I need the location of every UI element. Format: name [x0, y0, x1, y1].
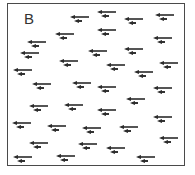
- arrow-pair: [13, 156, 35, 166]
- arrow-pair: [134, 71, 156, 81]
- arrow-pair: [32, 83, 54, 93]
- arrow-pair: [97, 86, 119, 96]
- panel-label: B: [24, 11, 34, 26]
- arrow-pair: [124, 48, 146, 58]
- arrow-pair: [13, 69, 35, 79]
- arrow-pair: [29, 105, 51, 115]
- arrow-pair: [56, 155, 78, 165]
- arrow-pair: [97, 29, 119, 39]
- arrow-pair: [20, 52, 42, 62]
- arrow-pair: [97, 109, 119, 119]
- arrow-pair: [126, 98, 148, 108]
- arrow-pair: [159, 62, 181, 72]
- arrow-pair: [27, 41, 49, 51]
- arrow-pair: [97, 11, 119, 21]
- arrow-pair: [153, 87, 175, 97]
- arrow-pair: [29, 142, 51, 152]
- arrow-pair: [159, 137, 181, 147]
- arrow-pair: [59, 60, 81, 70]
- arrow-pair: [64, 104, 86, 114]
- arrow-pair: [106, 147, 128, 157]
- arrow-pair: [88, 50, 110, 60]
- arrow-pair: [55, 33, 77, 43]
- arrow-pair: [72, 82, 94, 92]
- arrow-pair: [124, 18, 146, 28]
- arrow-pair: [82, 127, 104, 137]
- arrow-pair: [47, 125, 69, 135]
- arrow-pair: [153, 37, 175, 47]
- arrow-pair: [106, 64, 128, 74]
- arrow-pair: [12, 122, 34, 132]
- arrow-pair: [78, 143, 100, 153]
- arrow-pair: [119, 126, 141, 136]
- arrow-pair: [155, 14, 177, 24]
- arrow-pair: [153, 116, 175, 126]
- arrow-pair: [70, 16, 92, 26]
- arrow-pair: [136, 156, 158, 166]
